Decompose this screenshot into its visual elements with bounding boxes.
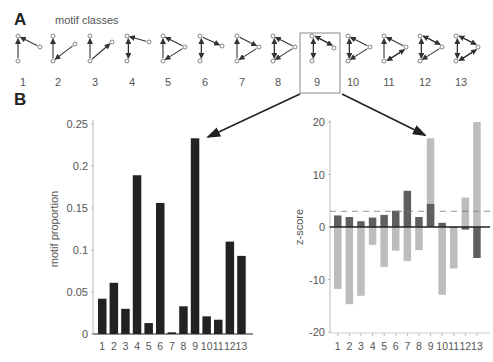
bar-motif-6 (156, 203, 165, 334)
x-tick-label: 3 (123, 340, 129, 352)
x-tick-label: 4 (134, 340, 140, 352)
y-tick-label: 0.15 (67, 202, 88, 214)
bar-light-motif-8 (415, 227, 423, 250)
bar-motif-10 (202, 316, 211, 334)
x-tick-label: 6 (157, 340, 163, 352)
bar-light-motif-6 (392, 227, 400, 251)
bar-light-motif-1 (334, 227, 342, 289)
x-tick-label: 4 (370, 340, 376, 352)
bar-dark-motif-7 (404, 191, 412, 227)
y-axis-label: motif proportion (48, 191, 60, 267)
x-tick-label: 1 (335, 340, 341, 352)
x-tick-label: 7 (404, 340, 410, 352)
bar-motif-11 (214, 320, 223, 334)
y-tick-label: 0 (82, 328, 88, 340)
arrow-to-proportion-chart (208, 94, 300, 137)
x-tick-label: 9 (192, 340, 198, 352)
bar-motif-9 (191, 138, 200, 334)
x-tick-label: 9 (428, 340, 434, 352)
y-tick-label: -10 (309, 274, 325, 286)
x-tick-label: 2 (346, 340, 352, 352)
bar-dark-motif-2 (346, 217, 354, 227)
arrow-to-zscore-chart (342, 94, 425, 135)
x-tick-label: 2 (111, 340, 117, 352)
y-tick-label: 0.25 (67, 118, 88, 130)
bar-light-motif-4 (369, 227, 377, 245)
x-tick-label: 11 (213, 340, 224, 352)
y-tick-label: 0.1 (73, 244, 88, 256)
bar-dark-motif-13 (473, 227, 481, 258)
x-tick-label: 8 (181, 340, 187, 352)
x-tick-label: 13 (236, 340, 248, 352)
bar-dark-motif-5 (380, 215, 388, 227)
y-tick-label: 10 (313, 169, 325, 181)
bar-light-motif-5 (380, 227, 388, 267)
y-tick-label: 0.2 (73, 160, 88, 172)
bar-motif-8 (179, 306, 188, 334)
bar-motif-7 (168, 332, 177, 334)
charts: 00.050.10.150.20.25motif proportion12345… (0, 0, 493, 362)
bar-motif-3 (121, 309, 130, 334)
x-tick-label: 13 (471, 340, 483, 352)
bar-dark-motif-4 (369, 218, 377, 227)
x-tick-label: 12 (224, 340, 236, 352)
bar-motif-13 (237, 256, 246, 334)
x-tick-label: 12 (460, 340, 472, 352)
bar-dark-motif-8 (415, 217, 423, 227)
bar-light-motif-3 (357, 227, 365, 296)
x-tick-label: 10 (436, 340, 448, 352)
bar-light-motif-11 (450, 227, 458, 268)
bar-light-motif-12 (462, 198, 470, 227)
y-tick-label: -20 (309, 326, 325, 338)
x-tick-label: 7 (169, 340, 175, 352)
x-tick-label: 8 (416, 340, 422, 352)
bar-motif-2 (110, 283, 119, 334)
bar-dark-motif-6 (392, 211, 400, 227)
motif-proportion-chart: 00.050.10.150.20.25motif proportion12345… (48, 118, 253, 352)
bar-motif-5 (144, 323, 153, 334)
y-tick-label: 0 (319, 221, 325, 233)
y-tick-label: 0.05 (67, 286, 88, 298)
z-score-chart: -20-1001020z-score12345678910111213 (293, 116, 490, 352)
x-tick-label: 6 (393, 340, 399, 352)
bar-motif-4 (133, 175, 142, 334)
bar-motif-12 (226, 242, 235, 334)
y-axis-label: z-score (293, 209, 305, 245)
bar-light-motif-10 (438, 227, 446, 295)
bar-dark-motif-1 (334, 215, 342, 227)
y-tick-label: 20 (313, 116, 325, 128)
x-tick-label: 5 (146, 340, 152, 352)
x-tick-label: 5 (381, 340, 387, 352)
x-tick-label: 10 (201, 340, 213, 352)
bar-motif-1 (98, 299, 107, 334)
x-tick-label: 1 (99, 340, 105, 352)
bar-light-motif-2 (346, 227, 354, 304)
bar-dark-motif-3 (357, 221, 365, 227)
x-tick-label: 11 (448, 340, 459, 352)
bar-light-motif-7 (404, 227, 412, 261)
x-tick-label: 3 (358, 340, 364, 352)
bar-dark-motif-9 (427, 204, 435, 227)
